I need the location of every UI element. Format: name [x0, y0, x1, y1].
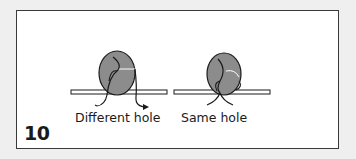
caption-different-hole: Different hole [75, 110, 161, 125]
thread-tail-left [95, 105, 97, 106]
step-number: 10 [24, 122, 49, 144]
button-sewing-diagram [17, 11, 340, 150]
figure-frame: Different hole Same hole 10 [16, 10, 339, 149]
different-hole-illustration [71, 51, 167, 110]
thread-right-tail-left [207, 93, 220, 105]
button-right [207, 53, 241, 95]
same-hole-illustration [174, 53, 270, 105]
caption-same-hole: Same hole [181, 110, 247, 125]
button-left [99, 51, 135, 95]
thread-left-c [135, 69, 147, 107]
